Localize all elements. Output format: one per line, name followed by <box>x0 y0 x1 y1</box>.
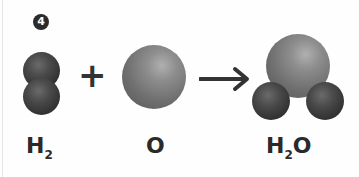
reaction-diagram: 4 + H2 O H2O <box>0 0 359 177</box>
water-label: H2O <box>266 133 311 162</box>
hydrogen-label-subscript: 2 <box>44 148 52 162</box>
water-label-subscript: 2 <box>284 148 292 162</box>
hydrogen-label-symbol: H <box>26 133 44 158</box>
water-hydrogen-atom-left <box>252 82 290 120</box>
water-hydrogen-atom-right <box>306 82 344 120</box>
oxygen-label-symbol: O <box>146 133 165 158</box>
left-border <box>2 0 3 177</box>
hydrogen-atom-bottom <box>23 78 60 115</box>
oxygen-atom <box>122 45 186 109</box>
water-label-o: O <box>293 133 312 158</box>
water-label-h: H <box>266 133 284 158</box>
oxygen-label: O <box>146 133 165 158</box>
reaction-arrow-icon <box>199 66 251 92</box>
step-number-badge: 4 <box>33 14 49 30</box>
plus-sign: + <box>78 58 107 92</box>
hydrogen-label: H2 <box>26 133 53 162</box>
